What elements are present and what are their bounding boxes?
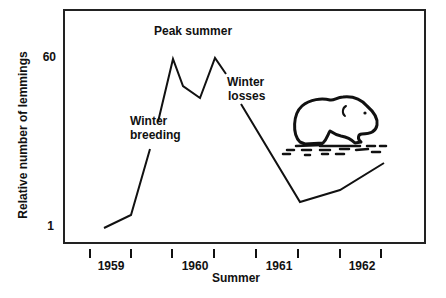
year-1959: 1959 bbox=[98, 259, 125, 273]
y-axis-label: Relative number of lemmings bbox=[16, 51, 30, 219]
y-tick-60: 60 bbox=[43, 50, 57, 64]
annotation-winter-breeding-line2: breeding bbox=[130, 128, 181, 142]
annotation-peak-summer: Peak summer bbox=[154, 24, 232, 38]
annotation-winter-breeding-line1: Winter bbox=[130, 114, 168, 128]
lemming-population-chart: Relative number of lemmings 60 1 1959 19… bbox=[0, 0, 446, 298]
x-ticks bbox=[90, 249, 381, 258]
lemming-illustration-icon bbox=[295, 97, 378, 144]
y-tick-1: 1 bbox=[47, 219, 54, 233]
annotation-winter-losses-line1: Winter bbox=[227, 75, 265, 89]
year-1960: 1960 bbox=[182, 259, 209, 273]
grass-dashes bbox=[283, 145, 386, 155]
year-1961: 1961 bbox=[266, 259, 293, 273]
x-axis-label: Summer bbox=[212, 271, 260, 285]
annotation-winter-losses-line2: losses bbox=[228, 89, 266, 103]
year-1962: 1962 bbox=[349, 259, 376, 273]
